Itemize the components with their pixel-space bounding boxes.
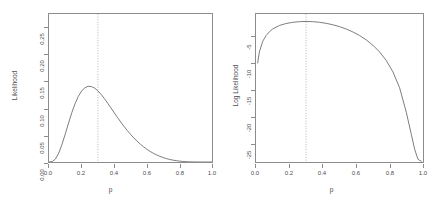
xtick-label: 0.0 — [243, 170, 267, 176]
ytick-label: -20 — [246, 117, 252, 139]
likelihood-panel: 0.00 0.05 0.10 0.15 0.20 0.25 0.0 0.2 0.… — [0, 0, 221, 203]
curve-path — [258, 21, 422, 161]
xtick-mark — [48, 164, 49, 168]
xtick-mark — [356, 164, 357, 168]
xtick-label: 0.6 — [135, 170, 159, 176]
xtick-label: 0.4 — [310, 170, 334, 176]
ytick-label: 0.20 — [39, 54, 45, 78]
ytick-label: -10 — [246, 63, 252, 85]
xtick-label: 0.2 — [277, 170, 301, 176]
xtick-label: 1.0 — [411, 170, 435, 176]
xtick-mark — [114, 164, 115, 168]
xtick-label: 0.8 — [168, 170, 192, 176]
curve-path — [49, 86, 212, 162]
y-axis-title: Likelihood — [11, 56, 18, 116]
xtick-label: 0.0 — [36, 170, 60, 176]
y-axis-title: Log Likelihood — [232, 50, 239, 122]
log-likelihood-panel: -5 -10 -15 -20 -25 0.0 0.2 0.4 0.6 0.8 1… — [221, 0, 442, 203]
plot-area-likelihood — [49, 14, 212, 162]
xtick-mark — [212, 164, 213, 168]
xtick-label: 0.2 — [69, 170, 93, 176]
xtick-mark — [390, 164, 391, 168]
figure-two-panel-likelihood: 0.00 0.05 0.10 0.15 0.20 0.25 0.0 0.2 0.… — [0, 0, 442, 203]
ytick-label: 0.10 — [39, 109, 45, 133]
plot-area-log-likelihood — [256, 14, 423, 162]
likelihood-curve — [49, 14, 212, 162]
plot-frame-log-likelihood — [255, 13, 424, 163]
xtick-mark — [81, 164, 82, 168]
xtick-label: 0.6 — [344, 170, 368, 176]
ytick-label: 0.25 — [39, 27, 45, 51]
xtick-mark — [289, 164, 290, 168]
ytick-label: -5 — [246, 36, 252, 58]
plot-frame-likelihood — [48, 13, 213, 163]
xtick-mark — [255, 164, 256, 168]
xtick-mark — [147, 164, 148, 168]
ytick-label: -15 — [246, 90, 252, 112]
ytick-label: 0.05 — [39, 136, 45, 160]
xtick-mark — [322, 164, 323, 168]
ytick-label: 0.15 — [39, 81, 45, 105]
log-likelihood-curve — [256, 14, 423, 162]
x-axis-title: p — [0, 186, 221, 193]
xtick-mark — [180, 164, 181, 168]
xtick-label: 0.8 — [378, 170, 402, 176]
xtick-mark — [423, 164, 424, 168]
ytick-label: -25 — [246, 144, 252, 166]
x-axis-title: p — [221, 186, 442, 193]
xtick-label: 0.4 — [102, 170, 126, 176]
